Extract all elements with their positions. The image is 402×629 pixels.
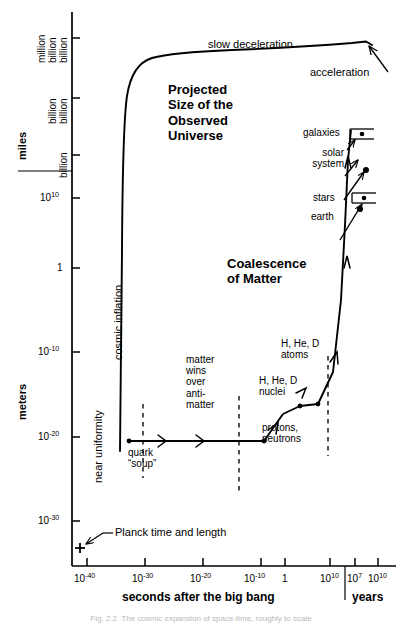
- x-ticks: [87, 558, 378, 566]
- y-tick-meters-3: 10-20: [38, 430, 59, 443]
- label-atoms: H, He, D atoms: [281, 338, 319, 360]
- x-tick-yr-1-base: 10: [368, 573, 379, 584]
- x-tick-yr-1-exp: 10: [379, 572, 387, 579]
- y-tick-meters-0-exp: 10: [51, 191, 59, 198]
- universe-size-curve: [120, 42, 372, 452]
- label-planck-time-and-length: Planck time and length: [115, 526, 226, 538]
- matter-atoms-dot: [316, 402, 321, 407]
- x-tick-sec-4: 1: [282, 572, 288, 585]
- label-slow-deceleration: slow deceleration: [208, 38, 293, 50]
- stars-icon: [352, 193, 376, 203]
- label-solar-system: solar system: [302, 147, 344, 169]
- planck-marker: [75, 543, 85, 553]
- x-tick-sec-1: 10-30: [132, 572, 153, 585]
- y-tick-meters-3-exp: -20: [49, 430, 59, 437]
- label-earth: earth: [311, 211, 334, 222]
- y-tick-miles-0-line-0: million: [37, 35, 47, 63]
- label-quark-soup: quark “soup”: [128, 447, 156, 469]
- y-tick-meters-4-exp: -30: [49, 514, 59, 521]
- x-tick-yr-0-base: 10: [347, 573, 358, 584]
- y-tick-meters-0: 1010: [40, 191, 59, 204]
- label-protons-neutrons: protons, neutrons: [262, 422, 301, 444]
- x-tick-yr-0-exp: 7: [358, 572, 362, 579]
- y-tick-meters-0-base: 10: [40, 192, 51, 203]
- x-tick-sec-3: 10-10: [244, 572, 265, 585]
- label-galaxies: galaxies: [303, 127, 340, 138]
- matter-nuclei-dot: [298, 404, 303, 409]
- x-tick-sec-3-exp: -10: [255, 572, 265, 579]
- figure-title-block: Projected Size of the Observed Universe: [168, 82, 233, 143]
- x-tick-sec-1-exp: -30: [143, 572, 153, 579]
- x-tick-sec-0-exp: -40: [85, 572, 95, 579]
- label-acceleration: acceleration: [310, 66, 369, 78]
- axis-label-miles: miles: [17, 132, 28, 160]
- axis-label-meters: meters: [17, 384, 28, 420]
- x-tick-sec-2-exp: -20: [201, 572, 211, 579]
- x-tick-sec-0-base: 10: [74, 573, 85, 584]
- y-tick-meters-3-base: 10: [38, 431, 49, 442]
- label-matter-wins: matter wins over anti- matter: [186, 354, 214, 410]
- galaxies-icon: [350, 129, 374, 139]
- y-ticks-miles: [72, 38, 80, 155]
- figure-caption: Fig. 2.2 The cosmic expansion of space-t…: [0, 614, 402, 629]
- x-tick-sec-2: 10-20: [190, 572, 211, 585]
- acceleration-arrow: [369, 46, 388, 72]
- y-tick-meters-4: 10-30: [38, 514, 59, 527]
- x-axis-title-years: years: [352, 591, 383, 603]
- label-nuclei: H, He, D nuclei: [259, 375, 297, 397]
- x-tick-sec-0: 10-40: [74, 572, 95, 585]
- y-ticks-meters: [72, 198, 80, 521]
- y-tick-miles-2-line-0: billion: [59, 152, 69, 178]
- y-tick-meters-2-base: 10: [38, 346, 49, 357]
- y-tick-miles-0-line-1: billion: [48, 37, 58, 63]
- y-tick-meters-2: 10-10: [38, 345, 59, 358]
- y-tick-meters-4-base: 10: [38, 515, 49, 526]
- x-tick-sec-3-base: 10: [244, 573, 255, 584]
- label-stars: stars: [313, 192, 335, 203]
- y-tick-meters-2-exp: -10: [49, 345, 59, 352]
- x-axis-title: seconds after the big bang: [122, 591, 275, 603]
- x-tick-sec-2-base: 10: [190, 573, 201, 584]
- y-tick-meters-1: 1: [57, 261, 63, 274]
- x-tick-yr-1: 1010: [368, 572, 387, 585]
- label-coalescence-of-matter: Coalescence of Matter: [227, 256, 307, 287]
- x-tick-sec-5-base: 10: [320, 573, 331, 584]
- figure-canvas: miles meters million billion billion bil…: [0, 0, 402, 629]
- x-tick-sec-4-base: 1: [282, 573, 288, 584]
- planck-leader-arrow: [86, 533, 103, 544]
- x-tick-sec-5: 1010: [320, 572, 339, 585]
- y-tick-miles-1-line-0: billion: [48, 98, 58, 124]
- y-tick-miles-1-line-1: billion: [59, 98, 69, 124]
- label-cosmic-inflation: cosmic inflation: [112, 285, 124, 360]
- label-near-uniformity: near uniformity: [92, 410, 104, 483]
- matter-start-dot: [127, 439, 132, 444]
- x-tick-sec-1-base: 10: [132, 573, 143, 584]
- y-tick-miles-0-line-2: billion: [59, 37, 69, 63]
- y-tick-meters-1-base: 1: [57, 262, 63, 273]
- x-tick-yr-0: 107: [347, 572, 362, 585]
- x-tick-sec-5-exp: 10: [331, 572, 339, 579]
- solar-system-icon: [363, 167, 369, 173]
- earth-icon: [357, 206, 363, 212]
